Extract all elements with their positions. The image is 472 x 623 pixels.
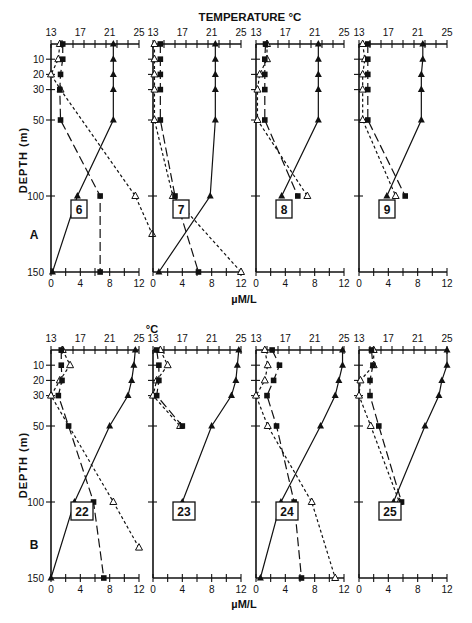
panel-station-24: 131721250481224	[250, 333, 350, 595]
concentration-tick-label: 12	[441, 584, 453, 595]
concentration-tick-label: 4	[283, 584, 289, 595]
filled-square-marker	[262, 117, 268, 123]
temperature-tick-label: 25	[235, 333, 247, 344]
filled-square-marker	[269, 347, 275, 353]
filled-square-marker	[180, 423, 186, 429]
row-label-b: B	[30, 538, 39, 552]
panel-station-9: 13172125048129	[353, 27, 453, 289]
filled-square-marker	[58, 117, 64, 123]
filled-triangle-marker	[315, 116, 322, 123]
concentration-tick-label: 0	[48, 584, 54, 595]
filled-triangle-marker	[125, 392, 132, 399]
filled-triangle-marker	[438, 376, 445, 383]
concentration-tick-label: 12	[133, 584, 145, 595]
depth-tick-label: 100	[27, 191, 44, 202]
filled-triangle-marker	[212, 70, 219, 77]
station-number: 6	[76, 203, 83, 217]
temperature-tick-label: 21	[412, 333, 424, 344]
concentration-tick-label: 4	[78, 584, 84, 595]
concentration-axis-title-row-a: µM/L	[231, 293, 257, 305]
filled-triangle-marker	[130, 361, 137, 368]
filled-square-marker	[376, 423, 382, 429]
panel-station-22: 13172125048121020305010015022	[27, 333, 145, 595]
temperature-axis-title: TEMPERATURE °C	[199, 11, 302, 23]
filled-triangle-marker	[110, 116, 117, 123]
temperature-tick-label: 25	[133, 27, 145, 38]
temperature-tick-label: 13	[353, 27, 365, 38]
concentration-tick-label: 8	[107, 584, 113, 595]
filled-square-marker	[97, 193, 103, 199]
filled-triangle-marker	[207, 192, 214, 199]
concentration-tick-label: 12	[133, 278, 145, 289]
filled-triangle-marker	[418, 116, 425, 123]
concentration-tick-label: 12	[441, 278, 453, 289]
filled-square-marker	[57, 87, 63, 93]
depth-profile-figure: TEMPERATURE °C °C DEPTH (m) DEPTH (m) A …	[0, 0, 472, 623]
concentration-tick-label: 0	[253, 584, 259, 595]
filled-triangle-marker	[315, 55, 322, 62]
filled-square-marker	[295, 193, 301, 199]
temperature-tick-label: 13	[45, 333, 57, 344]
filled-triangle-marker	[110, 55, 117, 62]
depth-tick-label: 30	[33, 390, 45, 401]
filled-square-marker	[262, 72, 268, 78]
filled-square-marker	[196, 269, 202, 275]
temperature-tick-label: 25	[133, 333, 145, 344]
concentration-tick-label: 4	[386, 584, 392, 595]
open-triangle-marker	[253, 392, 260, 399]
filled-square-marker	[369, 347, 375, 353]
temperature-tick-label: 17	[383, 333, 395, 344]
open-triangle-marker	[254, 116, 261, 123]
filled-triangle-marker	[110, 86, 117, 93]
temperature-tick-label: 21	[104, 27, 116, 38]
filled-square-marker	[271, 378, 277, 384]
temperature-tick-label: 13	[353, 333, 365, 344]
panel-station-23: 131721250481223	[147, 333, 247, 595]
concentration-tick-label: 4	[180, 584, 186, 595]
filled-square-marker	[158, 56, 164, 62]
concentration-tick-label: 12	[235, 584, 247, 595]
temperature-tick-label: 21	[412, 27, 424, 38]
filled-triangle-marker	[332, 392, 339, 399]
station-number: 23	[177, 505, 191, 519]
filled-triangle-marker	[212, 55, 219, 62]
concentration-tick-label: 0	[356, 584, 362, 595]
filled-square-marker	[60, 56, 66, 62]
filled-square-marker	[367, 378, 373, 384]
station-number: 9	[384, 203, 391, 217]
temperature-tick-label: 13	[250, 27, 262, 38]
filled-square-marker	[367, 393, 373, 399]
filled-square-marker	[97, 269, 103, 275]
filled-triangle-marker	[128, 376, 135, 383]
depth-tick-label: 20	[33, 375, 45, 386]
temperature-tick-label: 25	[441, 333, 453, 344]
filled-triangle-marker	[383, 192, 390, 199]
panel-station-8: 13172125048128	[250, 27, 350, 289]
filled-square-marker	[156, 378, 162, 384]
filled-square-marker	[277, 362, 283, 368]
filled-triangle-marker	[232, 376, 239, 383]
filled-triangle-marker	[418, 70, 425, 77]
temperature-tick-label: 25	[338, 333, 350, 344]
temperature-tick-label: 17	[75, 333, 87, 344]
temperature-tick-label: 17	[280, 333, 292, 344]
filled-triangle-marker	[212, 116, 219, 123]
temperature-tick-label: 17	[75, 27, 87, 38]
filled-triangle-marker	[422, 422, 429, 429]
temperature-tick-label: 13	[45, 27, 57, 38]
filled-triangle-marker	[317, 422, 324, 429]
filled-triangle-marker	[228, 392, 235, 399]
filled-square-marker	[58, 72, 64, 78]
open-triangle-marker	[304, 192, 311, 199]
filled-square-marker	[365, 117, 371, 123]
filled-square-marker	[59, 378, 65, 384]
open-triangle-marker	[151, 116, 158, 123]
filled-triangle-marker	[419, 55, 426, 62]
temperature-tick-label: 17	[280, 27, 292, 38]
concentration-tick-label: 0	[150, 584, 156, 595]
filled-square-marker	[158, 117, 164, 123]
open-triangle-marker	[164, 361, 171, 368]
open-triangle-marker	[367, 422, 374, 429]
open-triangle-marker	[151, 55, 158, 62]
filled-triangle-marker	[74, 192, 81, 199]
